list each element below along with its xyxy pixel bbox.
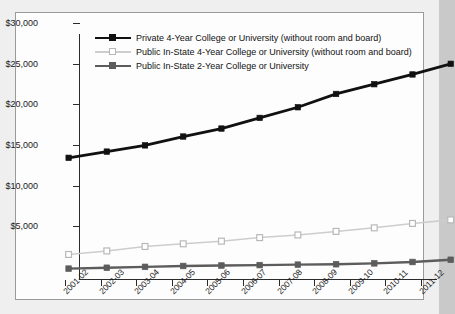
- data-point-marker: [333, 261, 339, 267]
- data-point-marker: [257, 262, 263, 268]
- legend-label: Private 4-Year College or University (wi…: [136, 33, 381, 43]
- data-point-marker: [448, 257, 454, 263]
- data-point-marker: [66, 252, 72, 258]
- data-point-marker: [333, 228, 339, 234]
- data-point-marker: [180, 263, 186, 269]
- data-point-marker: [295, 105, 300, 110]
- series-1: [66, 61, 453, 160]
- data-point-marker: [257, 115, 262, 120]
- chart-legend: Private 4-Year College or University (wi…: [95, 31, 395, 73]
- data-point-marker: [410, 72, 415, 77]
- data-point-marker: [372, 81, 377, 86]
- data-point-marker: [104, 265, 110, 271]
- legend-item-3: Public In-State 2-Year College or Univer…: [95, 59, 395, 72]
- data-point-marker: [180, 241, 186, 247]
- data-point-marker: [448, 217, 454, 223]
- data-point-marker: [333, 91, 338, 96]
- data-point-marker: [66, 266, 72, 272]
- data-point-marker: [295, 262, 301, 268]
- chart-frame: $30,000$25,000$20,000$15,000$10,000$5,00…: [15, 12, 424, 300]
- legend-marker-icon: [109, 34, 116, 41]
- series-2: [66, 217, 454, 257]
- legend-item-2: Public In-State 4-Year College or Univer…: [95, 45, 395, 58]
- data-point-marker: [104, 149, 109, 154]
- legend-swatch-icon: [95, 60, 131, 71]
- data-point-marker: [142, 143, 147, 148]
- legend-swatch-icon: [95, 46, 131, 57]
- data-point-marker: [295, 232, 301, 238]
- data-point-marker: [66, 155, 71, 160]
- data-point-marker: [219, 263, 225, 269]
- data-point-marker: [257, 235, 263, 241]
- legend-swatch-icon: [95, 32, 131, 43]
- series-3: [66, 257, 454, 272]
- data-point-marker: [448, 61, 453, 66]
- data-point-marker: [371, 225, 377, 231]
- legend-label: Public In-State 2-Year College or Univer…: [136, 61, 309, 71]
- data-point-marker: [410, 259, 416, 265]
- data-point-marker: [104, 248, 110, 254]
- data-point-marker: [142, 264, 148, 270]
- data-point-marker: [371, 260, 377, 266]
- data-point-marker: [410, 220, 416, 226]
- data-point-marker: [181, 134, 186, 139]
- data-point-marker: [219, 126, 224, 131]
- data-point-marker: [142, 244, 148, 250]
- data-point-marker: [219, 238, 225, 244]
- legend-marker-icon: [109, 48, 116, 55]
- legend-label: Public In-State 4-Year College or Univer…: [136, 47, 412, 57]
- series-line: [69, 64, 451, 158]
- legend-marker-icon: [109, 62, 116, 69]
- legend-item-1: Private 4-Year College or University (wi…: [95, 31, 395, 44]
